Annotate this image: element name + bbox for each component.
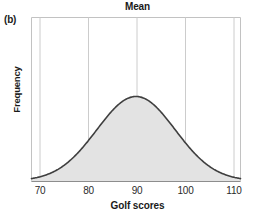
x-axis-label: Golf scores [0, 200, 253, 212]
x-axis-label-text: Golf scores [111, 200, 165, 211]
plot-area [0, 0, 253, 217]
distribution-fill [32, 97, 241, 182]
figure-panel-b: (b) Mean Frequency 70 80 90 100 110 Golf… [0, 0, 253, 217]
